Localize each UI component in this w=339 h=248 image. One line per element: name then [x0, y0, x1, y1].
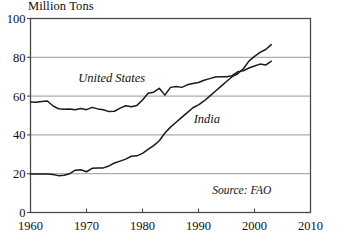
gridlines: [31, 57, 311, 173]
data-series-lines: [31, 45, 272, 176]
chart-plot-area: 020406080100 196019701980199020002010 Un…: [0, 0, 339, 248]
y-tick-label: 100: [7, 12, 26, 26]
x-tick-label: 1990: [186, 219, 211, 233]
x-tick-label: 1970: [74, 219, 99, 233]
wheat-production-chart: Million Tons 020406080100 19601970198019…: [0, 0, 339, 248]
y-axis-tick-labels: 020406080100: [7, 12, 31, 220]
source-attribution: Source: FAO: [212, 184, 272, 196]
y-tick-label: 80: [13, 51, 26, 65]
chart-annotations: United StatesIndiaSource: FAO: [78, 71, 272, 197]
series-annotation-united-states: United States: [78, 71, 145, 85]
series-annotation-india: India: [193, 112, 220, 126]
y-tick-label: 40: [13, 128, 26, 142]
x-tick-label: 2010: [298, 219, 323, 233]
x-tick-label: 2000: [242, 219, 267, 233]
x-tick-label: 1960: [18, 219, 43, 233]
series-line-united-states: [31, 61, 272, 111]
y-tick-label: 20: [13, 167, 26, 181]
y-tick-label: 60: [13, 90, 26, 104]
series-line-india: [31, 45, 272, 176]
x-axis-tick-labels: 196019701980199020002010: [18, 219, 323, 233]
x-tick-label: 1980: [130, 219, 155, 233]
